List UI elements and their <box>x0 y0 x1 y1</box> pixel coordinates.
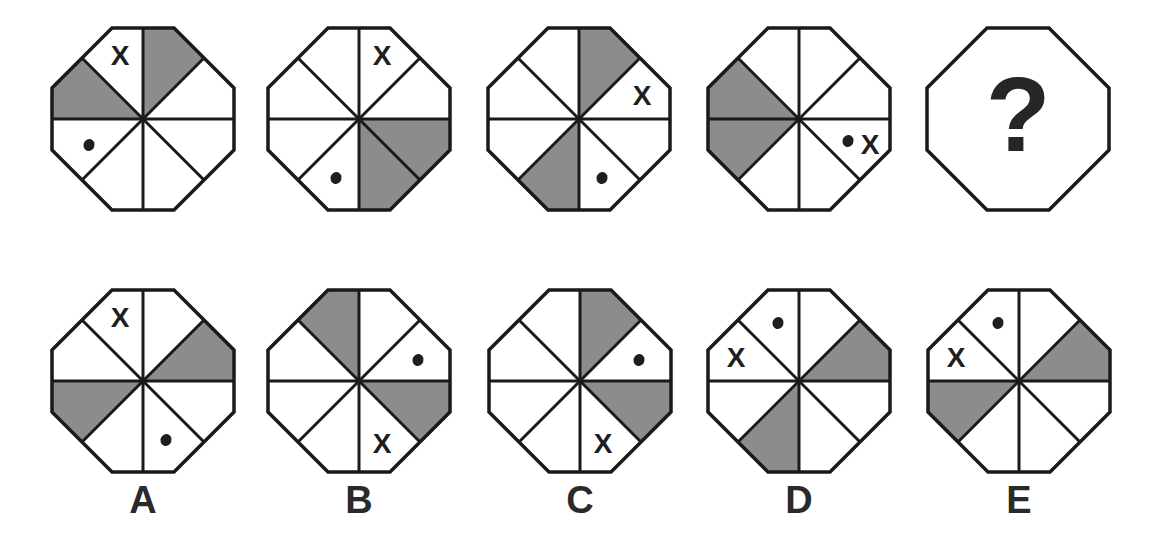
x-mark: X <box>633 82 652 110</box>
octagon-shape <box>488 28 670 210</box>
octagon-shape <box>268 290 450 472</box>
octagon-shape <box>708 28 890 210</box>
x-mark: X <box>373 42 392 70</box>
sequence-octagon-5: ? <box>927 28 1109 210</box>
option-label-c[interactable]: C <box>550 481 610 519</box>
octagon-shape <box>52 28 234 210</box>
option-octagon-c[interactable]: X <box>489 290 671 472</box>
sequence-octagon-2: X <box>268 28 450 210</box>
option-label-b[interactable]: B <box>329 481 389 519</box>
option-label-d[interactable]: D <box>769 481 829 519</box>
x-mark: X <box>861 131 880 159</box>
option-octagon-a[interactable]: X <box>52 290 234 472</box>
option-octagon-d[interactable]: X <box>708 290 890 472</box>
question-mark-icon: ? <box>986 61 1051 167</box>
option-label-e[interactable]: E <box>989 481 1049 519</box>
octagon-shape <box>928 290 1110 472</box>
sequence-octagon-3: X <box>488 28 670 210</box>
x-mark: X <box>594 430 613 458</box>
x-mark: X <box>111 42 130 70</box>
sequence-octagon-1: X <box>52 28 234 210</box>
x-mark: X <box>947 344 966 372</box>
option-octagon-e[interactable]: X <box>928 290 1110 472</box>
x-mark: X <box>111 304 130 332</box>
x-mark: X <box>727 344 746 372</box>
option-octagon-b[interactable]: X <box>268 290 450 472</box>
option-label-a[interactable]: A <box>113 481 173 519</box>
x-mark: X <box>373 430 392 458</box>
sequence-octagon-4: X <box>708 28 890 210</box>
octagon-shape <box>268 28 450 210</box>
octagon-shape <box>52 290 234 472</box>
octagon-shape <box>708 290 890 472</box>
octagon-shape <box>489 290 671 472</box>
